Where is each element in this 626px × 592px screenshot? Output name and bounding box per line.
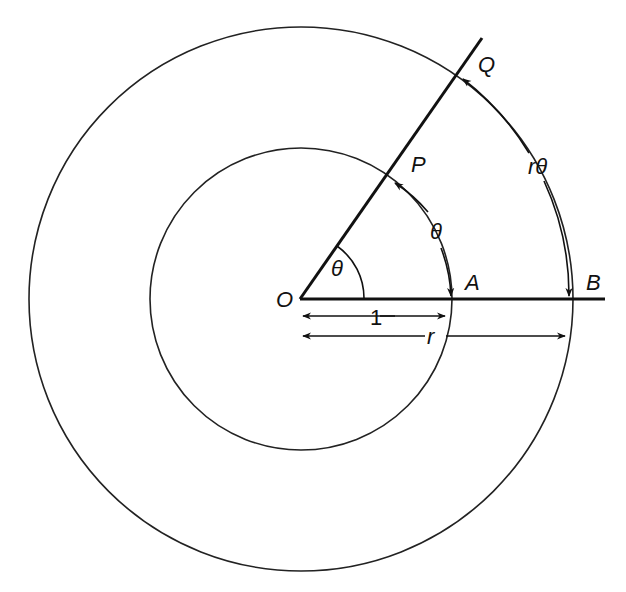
label-P: P [411,152,426,177]
label-A: A [463,270,480,295]
label-inner-arc-theta: θ [430,219,442,244]
outer-arc-arrow-down [544,181,569,296]
label-dim-r: r [427,324,436,349]
ray-OQ [300,38,482,299]
label-B: B [586,270,601,295]
label-outer-arc-r-theta: rθ [528,154,547,179]
label-Q: Q [478,52,495,77]
label-angle-theta: θ [331,256,343,281]
outer-arc-arrow-up [463,79,529,153]
label-O: O [276,287,293,312]
inner-arc-arrow-up [395,183,428,212]
arc-length-diagram: O A B P Q θ θ rθ 1 r [0,0,626,592]
label-dim-1: 1 [370,305,382,330]
